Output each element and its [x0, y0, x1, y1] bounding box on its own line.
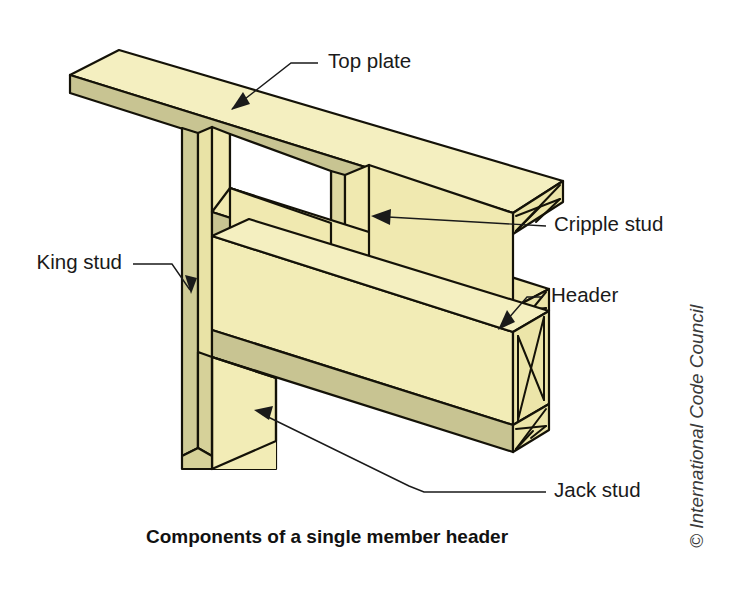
framing-diagram: Top plate Cripple stud Header King stud …: [0, 0, 732, 589]
king-stud-front-face: [182, 128, 198, 456]
jack-stud-left-return: [198, 352, 212, 456]
label-top-plate: Top plate: [328, 49, 411, 72]
label-header: Header: [551, 283, 618, 306]
label-jack-stud: Jack stud: [554, 478, 641, 501]
copyright-credit: © International Code Council: [686, 304, 707, 548]
label-cripple-stud: Cripple stud: [554, 212, 663, 235]
label-king-stud: King stud: [37, 250, 122, 273]
figure-page: Top plate Cripple stud Header King stud …: [0, 0, 732, 589]
figure-caption: Components of a single member header: [146, 526, 509, 547]
